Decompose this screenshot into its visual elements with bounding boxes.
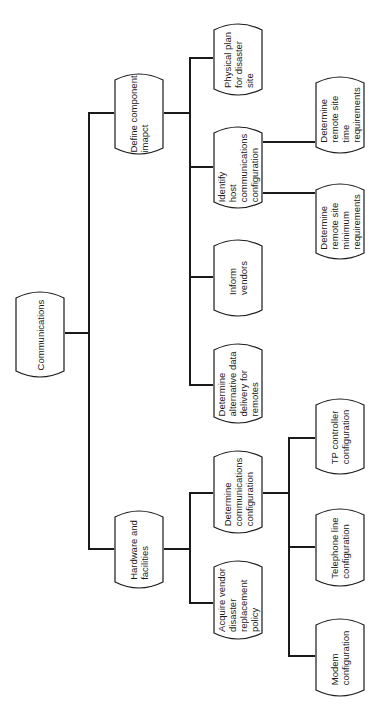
node-remote-minimum: Determine remote site minimum requiremen… <box>315 180 365 263</box>
connector-remote-min <box>262 192 316 194</box>
node-label: Telephone line configuration <box>329 517 351 578</box>
connector-remote-time <box>262 141 316 143</box>
node-comms-config: Determine communications configuration <box>213 447 263 537</box>
connector-commsconfig-out <box>262 492 290 494</box>
node-label: Modem configuration <box>329 630 351 684</box>
connector-define-out <box>163 112 191 114</box>
connector-altdata <box>189 384 214 386</box>
node-inform-vendors: Inform vendors <box>213 236 263 320</box>
spine-hardware <box>189 492 191 604</box>
connector-root <box>64 332 90 334</box>
node-label: TP controller configuration <box>329 409 351 463</box>
node-label: Acquire vendor disaster replacement poli… <box>216 568 260 632</box>
node-label: Inform vendors <box>227 261 249 295</box>
node-label: Hardware and facilities <box>128 520 150 580</box>
node-communications: Communications <box>15 288 65 381</box>
node-label: Define component imapct <box>128 75 150 152</box>
connector-physical <box>189 57 214 59</box>
node-tp-controller: TP controller configuration <box>315 395 365 478</box>
connector-define <box>88 112 115 114</box>
node-label: Determine alternative data delivery for … <box>216 351 260 416</box>
node-alt-data: Determine alternative data delivery for … <box>213 340 263 427</box>
node-hardware: Hardware and facilities <box>114 507 164 592</box>
node-label: Determine remote site time requirements <box>318 87 362 142</box>
connector-acquire <box>189 602 214 604</box>
node-acquire-vendor: Acquire vendor disaster replacement poli… <box>213 557 263 643</box>
node-label: Determine communications configuration <box>222 458 255 527</box>
connector-identify <box>189 166 214 168</box>
node-define-component: Define component imapct <box>114 70 164 158</box>
node-label: Communications <box>35 299 46 370</box>
connector-hardware <box>88 548 115 550</box>
connector-modem <box>288 655 316 657</box>
spine-define <box>189 57 191 386</box>
node-label: Physical plan for disaster site <box>222 32 255 88</box>
node-label: Identify host communications configurati… <box>216 133 260 202</box>
node-remote-time: Determine remote site time requirements <box>315 73 365 157</box>
node-modem: Modem configuration <box>315 615 365 700</box>
node-label: Determine remote site minimum requiremen… <box>318 194 362 249</box>
connector-hardware-out <box>163 548 191 550</box>
connector-commsconfig <box>189 492 214 494</box>
node-physical-plan: Physical plan for disaster site <box>213 20 263 99</box>
connector-inform <box>189 276 214 278</box>
node-telephone-line: Telephone line configuration <box>315 505 365 590</box>
spine-main <box>88 112 90 550</box>
connector-tp <box>288 437 316 439</box>
node-identify-host: Identify host communications configurati… <box>213 123 263 212</box>
connector-telephone <box>288 546 316 548</box>
